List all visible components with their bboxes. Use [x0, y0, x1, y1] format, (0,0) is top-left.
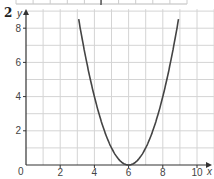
svg-text:2: 2 [15, 125, 21, 136]
x-axis-label: x [206, 166, 213, 177]
svg-text:10: 10 [191, 167, 203, 178]
parabola-chart: 2468102468 2 y x 0 [0, 0, 214, 179]
svg-text:8: 8 [160, 167, 166, 178]
svg-text:6: 6 [126, 167, 132, 178]
svg-text:4: 4 [15, 91, 21, 102]
svg-text:2: 2 [57, 167, 63, 178]
svg-text:6: 6 [15, 57, 21, 68]
axes [23, 9, 212, 168]
y-axis-label: y [16, 8, 23, 19]
question-number: 2 [4, 6, 12, 20]
previous-question-table-edge [16, 0, 187, 5]
svg-text:4: 4 [92, 167, 98, 178]
svg-text:8: 8 [15, 23, 21, 34]
grid-lines [26, 9, 214, 165]
origin-label: 0 [18, 166, 24, 177]
